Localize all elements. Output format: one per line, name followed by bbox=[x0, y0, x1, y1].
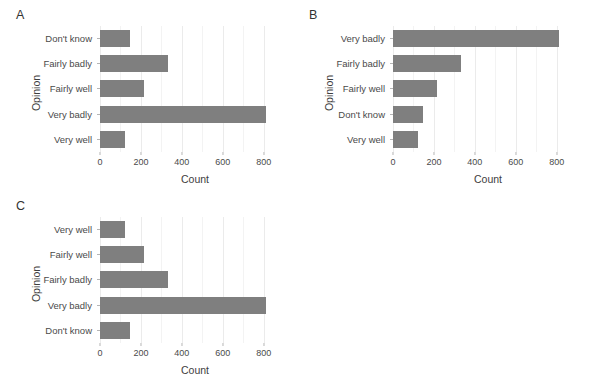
bar bbox=[393, 106, 423, 123]
x-tick-label-400: 400 bbox=[174, 343, 189, 358]
x-tick-label-400: 400 bbox=[467, 152, 482, 167]
bar bbox=[100, 55, 168, 72]
x-tick-label-0: 0 bbox=[97, 343, 102, 358]
bar bbox=[100, 297, 266, 314]
panel-a: A Opinion Don't knowFairly badlyFairly w… bbox=[0, 0, 296, 191]
x-tick-label-800: 800 bbox=[256, 343, 271, 358]
bar bbox=[100, 30, 130, 47]
bar-row bbox=[393, 30, 571, 47]
bar-row bbox=[100, 246, 278, 263]
bar bbox=[100, 80, 144, 97]
x-tick-mark bbox=[181, 343, 182, 346]
y-category-label: Fairly well bbox=[297, 80, 385, 97]
bar-row bbox=[100, 30, 278, 47]
x-tick-label-200: 200 bbox=[133, 152, 148, 167]
x-tick-mark bbox=[433, 152, 434, 155]
x-tick-label-600: 600 bbox=[508, 152, 523, 167]
panel-tag-c: C bbox=[16, 199, 25, 213]
x-tick-mark bbox=[222, 152, 223, 155]
x-tick-mark bbox=[392, 152, 393, 155]
x-tick-mark bbox=[263, 152, 264, 155]
x-tick-mark bbox=[263, 343, 264, 346]
x-tick-label-0: 0 bbox=[97, 152, 102, 167]
y-category-label: Very badly bbox=[4, 106, 92, 123]
bar bbox=[100, 106, 266, 123]
x-tick-label-600: 600 bbox=[215, 343, 230, 358]
x-tick-mark bbox=[222, 343, 223, 346]
x-axis-title-a: Count bbox=[100, 173, 290, 185]
y-category-label: Fairly well bbox=[4, 246, 92, 263]
plot-area-a: Don't knowFairly badlyFairly wellVery ba… bbox=[100, 26, 278, 152]
bar-row bbox=[100, 106, 278, 123]
bar bbox=[100, 322, 130, 339]
y-category-label: Very well bbox=[297, 131, 385, 148]
x-tick-mark bbox=[140, 152, 141, 155]
x-tick-label-600: 600 bbox=[215, 152, 230, 167]
bar-row bbox=[100, 271, 278, 288]
x-tick-labels-c: 0200400600800 bbox=[100, 343, 278, 361]
bar bbox=[100, 246, 144, 263]
bar-row bbox=[393, 80, 571, 97]
plot-area-c: Very wellFairly wellFairly badlyVery bad… bbox=[100, 217, 278, 343]
bar bbox=[393, 131, 418, 148]
x-tick-mark bbox=[474, 152, 475, 155]
bar bbox=[100, 271, 168, 288]
bars-a bbox=[100, 26, 278, 152]
y-category-labels-a: Don't knowFairly badlyFairly wellVery ba… bbox=[4, 26, 92, 152]
x-tick-mark bbox=[181, 152, 182, 155]
bar bbox=[100, 131, 125, 148]
y-category-label: Don't know bbox=[297, 106, 385, 123]
y-category-label: Fairly badly bbox=[4, 271, 92, 288]
x-axis-title-c: Count bbox=[100, 364, 290, 376]
bar-row bbox=[100, 322, 278, 339]
x-tick-label-800: 800 bbox=[256, 152, 271, 167]
x-tick-mark bbox=[140, 343, 141, 346]
bar-row bbox=[100, 297, 278, 314]
bars-b bbox=[393, 26, 571, 152]
x-tick-label-200: 200 bbox=[426, 152, 441, 167]
y-category-label: Very badly bbox=[297, 30, 385, 47]
y-category-label: Very well bbox=[4, 221, 92, 238]
bar bbox=[393, 55, 461, 72]
bar-row bbox=[393, 106, 571, 123]
x-tick-labels-a: 0200400600800 bbox=[100, 152, 278, 170]
bar-row bbox=[100, 221, 278, 238]
plot-area-b: Very badlyFairly badlyFairly wellDon't k… bbox=[393, 26, 571, 152]
x-tick-label-800: 800 bbox=[549, 152, 564, 167]
multi-panel-bar-chart-figure: A Opinion Don't knowFairly badlyFairly w… bbox=[0, 0, 593, 383]
y-category-label: Don't know bbox=[4, 322, 92, 339]
bar-row bbox=[100, 131, 278, 148]
x-tick-label-0: 0 bbox=[390, 152, 395, 167]
y-category-label: Fairly well bbox=[4, 80, 92, 97]
x-tick-mark bbox=[556, 152, 557, 155]
y-category-label: Fairly badly bbox=[297, 55, 385, 72]
panel-tag-a: A bbox=[16, 8, 25, 22]
x-tick-mark bbox=[99, 152, 100, 155]
y-category-label: Don't know bbox=[4, 30, 92, 47]
panel-b: B Opinion Very badlyFairly badlyFairly w… bbox=[293, 0, 589, 191]
y-category-label: Very badly bbox=[4, 297, 92, 314]
bars-c bbox=[100, 217, 278, 343]
y-category-labels-c: Very wellFairly wellFairly badlyVery bad… bbox=[4, 217, 92, 343]
y-category-label: Fairly badly bbox=[4, 55, 92, 72]
x-tick-mark bbox=[99, 343, 100, 346]
panel-tag-b: B bbox=[309, 8, 318, 22]
bar bbox=[100, 221, 125, 238]
bar-row bbox=[100, 55, 278, 72]
y-category-label: Very well bbox=[4, 131, 92, 148]
x-tick-labels-b: 0200400600800 bbox=[393, 152, 571, 170]
bar bbox=[393, 80, 437, 97]
bar-row bbox=[393, 131, 571, 148]
x-tick-label-400: 400 bbox=[174, 152, 189, 167]
x-axis-title-b: Count bbox=[393, 173, 583, 185]
bar bbox=[393, 30, 559, 47]
panel-c: C Opinion Very wellFairly wellFairly bad… bbox=[0, 191, 296, 382]
bar-row bbox=[100, 80, 278, 97]
bar-row bbox=[393, 55, 571, 72]
x-tick-mark bbox=[515, 152, 516, 155]
y-category-labels-b: Very badlyFairly badlyFairly wellDon't k… bbox=[297, 26, 385, 152]
x-tick-label-200: 200 bbox=[133, 343, 148, 358]
